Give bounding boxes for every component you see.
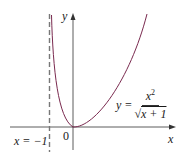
equation-label: y = x2 √x + 1 <box>116 88 166 122</box>
equation-numerator: x2 <box>142 88 159 106</box>
asymptote-label: x = −1 <box>14 135 48 147</box>
y-axis-arrow-icon <box>71 13 76 20</box>
x-axis-arrow-icon <box>169 125 176 130</box>
origin-label: 0 <box>63 130 69 142</box>
equation-denominator: √x + 1 <box>134 106 166 122</box>
equation-lhs: y = <box>116 99 132 111</box>
y-axis-label: y <box>62 10 67 22</box>
x-axis-label: x <box>168 133 173 145</box>
